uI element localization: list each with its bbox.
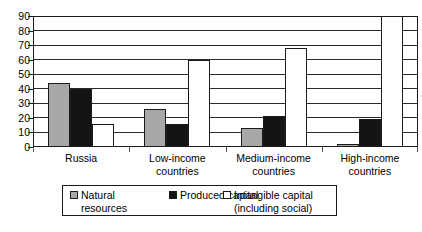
x-axis-category-labels: RussiaLow-income countriesMedium-income … [33, 152, 418, 180]
bar [263, 116, 285, 147]
legend-item: Natural resources [70, 189, 165, 214]
bar [188, 60, 210, 147]
legend-label: Natural resources [81, 189, 127, 214]
y-tick-label: 10 [0, 127, 30, 138]
bar [70, 89, 92, 147]
y-tick-label: 80 [0, 26, 30, 37]
bar [337, 144, 359, 147]
x-axis-label: Medium-income countries [226, 152, 322, 177]
bar [166, 124, 188, 147]
bar [285, 48, 307, 147]
y-tick-label: 60 [0, 55, 30, 66]
y-tick-label: 40 [0, 84, 30, 95]
y-axis-tick-labels: 9080706050403020100 [0, 16, 30, 147]
y-tick-label: 30 [0, 98, 30, 109]
legend-item: Intangible capital (including social) [223, 189, 338, 214]
legend-swatch-produced-icon [169, 191, 177, 199]
legend-swatch-natural-icon [70, 191, 78, 199]
bar [241, 128, 263, 147]
bar [48, 83, 70, 147]
grouped-bar-chart: 9080706050403020100 RussiaLow-income cou… [0, 0, 422, 232]
y-tick-label: 90 [0, 11, 30, 22]
plot-area: 9080706050403020100 RussiaLow-income cou… [0, 0, 422, 178]
x-axis-label: Low-income countries [129, 152, 225, 177]
bar [144, 109, 166, 147]
bar [381, 16, 403, 147]
bars-layer [33, 16, 418, 147]
x-axis-label: Russia [33, 152, 129, 165]
legend: Natural resourcesProduced capitalIntangi… [62, 185, 337, 216]
legend-label: Intangible capital (including social) [234, 189, 313, 214]
y-tick-label: 70 [0, 40, 30, 51]
y-tick-label: 20 [0, 113, 30, 124]
x-axis-label: High-income countries [322, 152, 418, 177]
bar [92, 124, 114, 147]
bar-group [48, 16, 114, 147]
bar-group [337, 16, 403, 147]
bar-group [241, 16, 307, 147]
y-tick-label: 0 [0, 142, 30, 153]
y-tick-label: 50 [0, 69, 30, 80]
bar-group [144, 16, 210, 147]
bar [359, 119, 381, 147]
legend-swatch-intangible-icon [223, 191, 231, 199]
